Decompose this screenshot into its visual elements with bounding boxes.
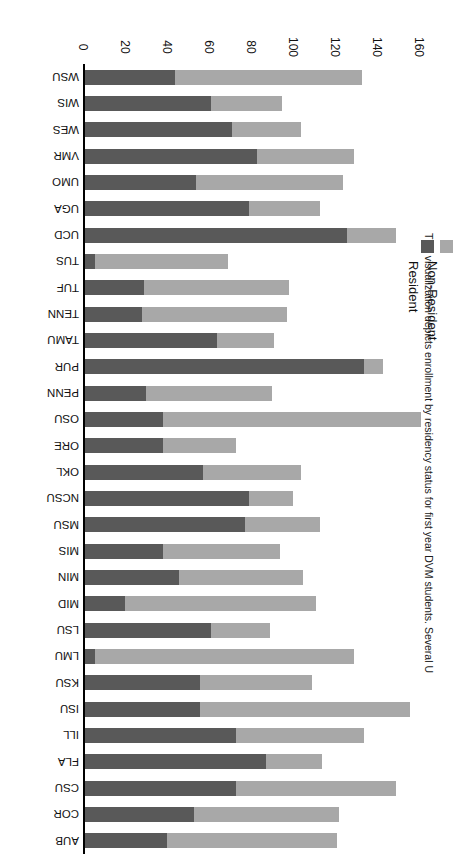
bar-row: [85, 570, 303, 585]
value-tick-140: 140: [370, 27, 384, 67]
legend-label: Non-Resident: [425, 261, 440, 341]
bar-row: [85, 307, 287, 322]
bar-row: [85, 96, 282, 111]
bar-row: [85, 675, 312, 690]
bar-segment-non-resident: [348, 228, 396, 243]
category-label-wsu: WSU: [35, 70, 79, 84]
bar-segment-non-resident: [167, 833, 337, 848]
bar-segment-non-resident: [364, 359, 383, 374]
category-label-tus: TUS: [35, 255, 79, 269]
bar-row: [85, 412, 421, 427]
bar-segment-resident: [85, 465, 203, 480]
value-tick-60: 60: [202, 27, 216, 67]
category-label-tenn: TENN: [35, 307, 79, 321]
bar-segment-non-resident: [142, 307, 287, 322]
bar-segment-non-resident: [257, 149, 354, 164]
category-label-isu: ISU: [35, 702, 79, 716]
bar-row: [85, 807, 339, 822]
category-label-wis: WIS: [35, 97, 79, 111]
chart-figure: This visualization depicts enrollment by…: [0, 0, 457, 854]
chart-legend: Non-ResidentResident: [417, 236, 453, 446]
value-tick-20: 20: [118, 27, 132, 67]
bar-segment-non-resident: [249, 201, 320, 216]
bar-segment-resident: [85, 122, 232, 137]
value-tick-160: 160: [412, 27, 426, 67]
bar-segment-non-resident: [146, 386, 272, 401]
bar-segment-resident: [85, 254, 96, 269]
bar-row: [85, 201, 320, 216]
category-label-umo: UMO: [35, 176, 79, 190]
bar-row: [85, 702, 411, 717]
bar-row: [85, 465, 301, 480]
bar-segment-non-resident: [163, 438, 237, 453]
bar-segment-resident: [85, 70, 175, 85]
bar-segment-resident: [85, 517, 245, 532]
bar-segment-resident: [85, 175, 196, 190]
bar-segment-non-resident: [266, 754, 323, 769]
category-label-msu: MSU: [35, 518, 79, 532]
bar-row: [85, 70, 362, 85]
bar-segment-resident: [85, 807, 194, 822]
bar-segment-non-resident: [175, 70, 362, 85]
bar-segment-resident: [85, 386, 146, 401]
bar-segment-resident: [85, 96, 211, 111]
category-label-ksu: KSU: [35, 676, 79, 690]
bar-segment-resident: [85, 702, 201, 717]
bar-row: [85, 596, 316, 611]
bar-segment-resident: [85, 228, 348, 243]
bar-segment-resident: [85, 649, 96, 664]
bar-row: [85, 175, 343, 190]
bar-segment-non-resident: [203, 465, 302, 480]
category-label-penn: PENN: [35, 386, 79, 400]
bar-segment-resident: [85, 307, 142, 322]
category-label-ore: ORE: [35, 439, 79, 453]
bar-row: [85, 491, 293, 506]
category-label-aub: AUB: [35, 834, 79, 848]
category-label-uga: UGA: [35, 202, 79, 216]
bar-segment-non-resident: [232, 122, 301, 137]
bar-row: [85, 359, 383, 374]
bar-segment-non-resident: [211, 623, 270, 638]
legend-swatch: [440, 240, 453, 253]
bar-segment-resident: [85, 728, 236, 743]
value-tick-0: 0: [76, 27, 90, 67]
category-label-ill: ILL: [35, 729, 79, 743]
bar-row: [85, 728, 364, 743]
bar-segment-resident: [85, 491, 249, 506]
bar-row: [85, 254, 228, 269]
bar-row: [85, 228, 396, 243]
value-tick-100: 100: [286, 27, 300, 67]
bar-segment-resident: [85, 833, 167, 848]
category-label-okl: OKL: [35, 465, 79, 479]
bar-row: [85, 833, 337, 848]
bar-segment-non-resident: [196, 175, 343, 190]
bar-segment-resident: [85, 412, 163, 427]
bar-segment-non-resident: [194, 807, 339, 822]
category-label-tuf: TUF: [35, 281, 79, 295]
bar-row: [85, 517, 320, 532]
bar-segment-resident: [85, 201, 249, 216]
category-label-lmu: LMU: [35, 650, 79, 664]
bar-segment-non-resident: [125, 596, 316, 611]
value-tick-120: 120: [328, 27, 342, 67]
bar-segment-resident: [85, 570, 180, 585]
bar-row: [85, 781, 396, 796]
bar-row: [85, 122, 301, 137]
category-label-mis: MIS: [35, 544, 79, 558]
category-label-wes: WES: [35, 123, 79, 137]
category-label-pur: PUR: [35, 360, 79, 374]
bar-segment-non-resident: [236, 781, 396, 796]
bar-row: [85, 754, 322, 769]
bar-row: [85, 623, 270, 638]
bar-segment-resident: [85, 754, 266, 769]
bar-row: [85, 280, 289, 295]
category-label-cor: COR: [35, 808, 79, 822]
bar-segment-non-resident: [201, 675, 312, 690]
bar-segment-resident: [85, 544, 163, 559]
bar-segment-non-resident: [96, 254, 228, 269]
bar-segment-non-resident: [144, 280, 289, 295]
bar-segment-non-resident: [236, 728, 364, 743]
category-label-min: MIN: [35, 571, 79, 585]
category-label-mid: MID: [35, 597, 79, 611]
category-label-ncsu: NCSU: [35, 492, 79, 506]
